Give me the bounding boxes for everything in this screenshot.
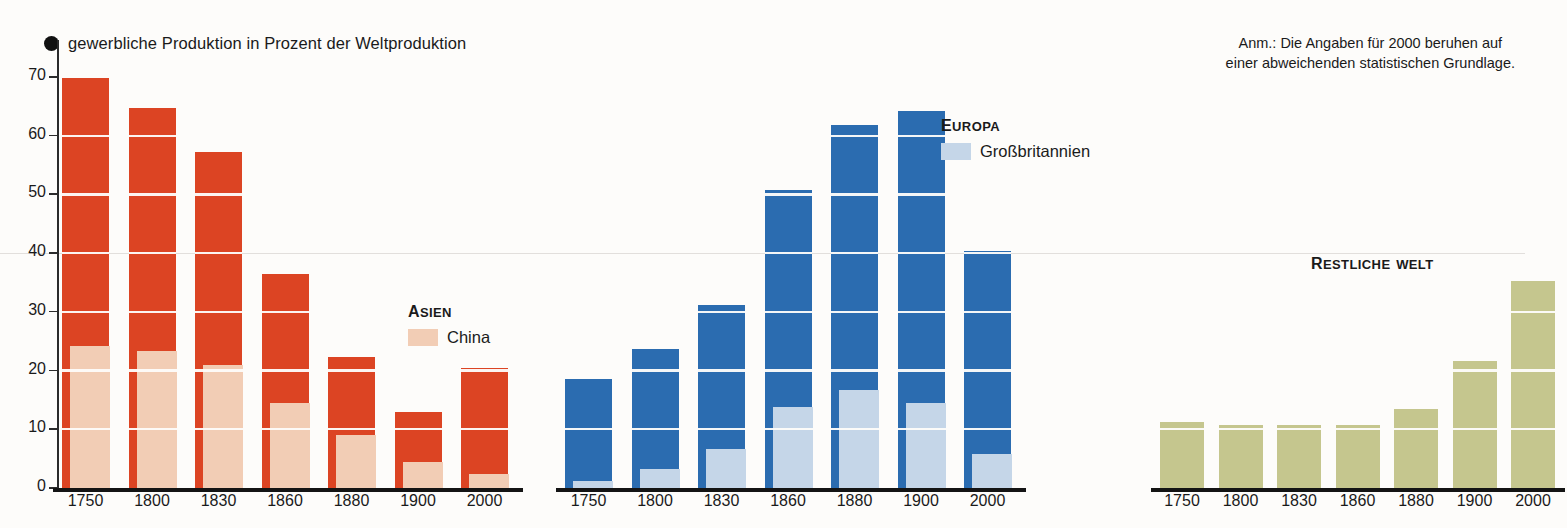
separator-30	[698, 311, 745, 313]
separator-20	[328, 369, 375, 371]
bar-restliche-welt-1900[interactable]	[1453, 361, 1497, 488]
separator-20	[203, 369, 243, 371]
y-tick-label-50: 50	[6, 183, 46, 201]
y-tick-label-10: 10	[6, 418, 46, 436]
bar-europa-1750[interactable]	[565, 379, 612, 488]
bar-china-1880[interactable]	[336, 435, 376, 488]
separator-50	[898, 193, 945, 195]
y-tick-label-0: 0	[6, 477, 46, 495]
bar-separators	[573, 481, 613, 488]
bar-separators	[632, 349, 679, 488]
bar-grobritannien-1800[interactable]	[640, 469, 680, 488]
separator-20	[137, 369, 177, 371]
bar-separators	[972, 454, 1012, 488]
legend-asia-sub-label: China	[447, 328, 490, 347]
bar-europa-2000[interactable]	[964, 251, 1011, 488]
separator-10	[839, 428, 879, 430]
legend-swatch-china	[408, 329, 438, 346]
y-tick-label-20: 20	[6, 360, 46, 378]
bar-separators	[336, 435, 376, 488]
separator-30	[898, 311, 945, 313]
separator-30	[1511, 311, 1555, 313]
bar-grobritannien-1860[interactable]	[773, 407, 813, 488]
separator-20	[765, 369, 812, 371]
separator-30	[129, 311, 176, 313]
bar-grobritannien-1830[interactable]	[706, 449, 746, 488]
y-tick-label-40: 40	[6, 242, 46, 260]
x-label-europa-1880: 1880	[819, 492, 890, 510]
bar-separators	[706, 449, 746, 488]
separator-10	[1277, 428, 1321, 430]
bar-china-1860[interactable]	[270, 403, 310, 488]
separator-20	[632, 369, 679, 371]
separator-30	[62, 311, 109, 313]
y-tick-70	[49, 76, 59, 78]
bar-europa-1800[interactable]	[632, 349, 679, 488]
separator-40	[831, 252, 878, 254]
bar-separators	[461, 368, 508, 488]
separator-50	[129, 193, 176, 195]
x-label-asien-1860: 1860	[250, 492, 321, 510]
bar-grobritannien-1750[interactable]	[573, 481, 613, 488]
separator-30	[964, 311, 1011, 313]
bar-china-1800[interactable]	[137, 351, 177, 488]
bar-restliche-welt-2000[interactable]	[1511, 281, 1555, 488]
separator-10	[964, 428, 1011, 430]
bar-separators	[137, 351, 177, 488]
separator-40	[898, 252, 945, 254]
legend-rest-title: Restliche Welt	[1311, 248, 1434, 275]
y-axis-line	[57, 40, 59, 488]
bar-separators	[1394, 409, 1438, 488]
bar-grobritannien-2000[interactable]	[972, 454, 1012, 488]
bar-separators	[565, 379, 612, 488]
separator-40	[129, 252, 176, 254]
y-tick-label-70: 70	[6, 66, 46, 84]
separator-10	[137, 428, 177, 430]
separator-50	[62, 193, 109, 195]
separator-10	[1394, 428, 1438, 430]
separator-10	[1160, 428, 1204, 430]
separator-30	[831, 311, 878, 313]
bar-restliche-welt-1800[interactable]	[1219, 425, 1263, 488]
separator-10	[1511, 428, 1555, 430]
y-tick-50	[49, 193, 59, 195]
bar-grobritannien-1880[interactable]	[839, 390, 879, 488]
x-label-europa-1750: 1750	[553, 492, 624, 510]
legend-europe: Europa Großbritannien	[941, 110, 1090, 161]
separator-10	[395, 428, 442, 430]
bar-restliche-welt-1830[interactable]	[1277, 425, 1321, 488]
separator-20	[262, 369, 309, 371]
bar-restliche-welt-1750[interactable]	[1160, 422, 1204, 488]
bar-separators	[773, 407, 813, 488]
legend-europe-sub-label: Großbritannien	[980, 142, 1090, 161]
separator-10	[461, 428, 508, 430]
y-tick-60	[49, 135, 59, 137]
y-tick-40	[49, 252, 59, 254]
bar-china-1750[interactable]	[70, 346, 110, 488]
bar-restliche-welt-1880[interactable]	[1394, 409, 1438, 488]
y-tick-10	[49, 428, 59, 430]
bar-separators	[1511, 281, 1555, 488]
bar-china-1830[interactable]	[203, 365, 243, 488]
x-label-europa-1830: 1830	[686, 492, 757, 510]
separator-10	[203, 428, 243, 430]
y-tick-30	[49, 311, 59, 313]
separator-60	[62, 135, 109, 137]
bar-china-2000[interactable]	[469, 474, 509, 488]
bar-restliche-welt-1860[interactable]	[1336, 425, 1380, 488]
separator-20	[1453, 369, 1497, 371]
x-label-asien-2000: 2000	[449, 492, 520, 510]
legend-asia: Asien China	[408, 296, 490, 347]
bar-separators	[1336, 425, 1380, 488]
x-label-asien-1830: 1830	[183, 492, 254, 510]
bar-china-1900[interactable]	[403, 462, 443, 488]
x-label-europa-2000: 2000	[952, 492, 1023, 510]
bar-grobritannien-1900[interactable]	[906, 403, 946, 488]
x-label-asien-1800: 1800	[117, 492, 188, 510]
separator-30	[262, 311, 309, 313]
bar-asien-2000[interactable]	[461, 368, 508, 488]
bar-separators	[1277, 425, 1321, 488]
separator-20	[964, 369, 1011, 371]
y-tick-20	[49, 370, 59, 372]
bar-separators	[270, 403, 310, 488]
